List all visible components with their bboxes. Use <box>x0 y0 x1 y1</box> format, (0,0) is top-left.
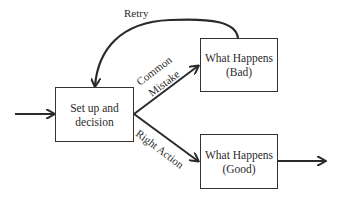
good-label-1: What Happens <box>205 148 273 162</box>
bad-label-2: (Bad) <box>226 65 252 79</box>
setup-label-2: decision <box>75 115 113 129</box>
retry-label: Retry <box>124 7 148 19</box>
good-outcome-node: What Happens (Good) <box>200 134 278 189</box>
bad-outcome-node: What Happens (Bad) <box>200 38 278 92</box>
bad-label-1: What Happens <box>205 51 273 65</box>
setup-label-1: Set up and <box>70 101 119 115</box>
setup-decision-node: Set up and decision <box>55 87 134 142</box>
diagram-arrows <box>0 0 342 200</box>
good-label-2: (Good) <box>222 162 255 176</box>
